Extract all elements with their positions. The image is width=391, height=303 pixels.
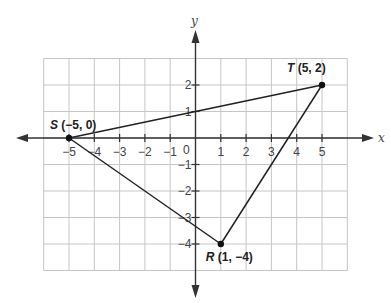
x-tick-label: 1 bbox=[217, 145, 224, 159]
y-axis-label: y bbox=[190, 14, 198, 28]
x-tick-label: 4 bbox=[293, 145, 300, 159]
point-label-t: T (5, 2) bbox=[287, 61, 326, 75]
x-tick-label: −1 bbox=[163, 145, 177, 159]
point-label-r: R (1, −4) bbox=[206, 250, 253, 264]
x-tick-label: 2 bbox=[243, 145, 250, 159]
x-axis-right-arrow-icon bbox=[362, 134, 374, 142]
y-tick-label: −1 bbox=[178, 158, 192, 172]
coordinate-plane: x y 0 −5−4−3−2−11234521−1−2−3−4 S (−5, 0… bbox=[0, 0, 391, 303]
x-tick-label: −2 bbox=[138, 145, 152, 159]
point-s bbox=[66, 135, 72, 141]
x-tick-label: 5 bbox=[319, 145, 326, 159]
y-tick-label: 2 bbox=[185, 78, 192, 92]
point-label-s: S (−5, 0) bbox=[50, 118, 96, 132]
y-tick-label: −2 bbox=[178, 184, 192, 198]
point-t bbox=[319, 82, 325, 88]
y-tick-label: −4 bbox=[178, 237, 192, 251]
y-tick-label: 1 bbox=[185, 105, 192, 119]
point-r bbox=[218, 241, 224, 247]
x-tick-label: 3 bbox=[268, 145, 275, 159]
x-axis-left-arrow-icon bbox=[16, 134, 28, 142]
x-axis-label: x bbox=[378, 131, 385, 145]
origin-label: 0 bbox=[183, 143, 190, 157]
x-tick-label: −5 bbox=[62, 145, 76, 159]
y-axis-down-arrow-icon bbox=[192, 285, 200, 298]
x-tick-label: −3 bbox=[113, 145, 127, 159]
y-axis-up-arrow-icon bbox=[192, 30, 200, 43]
